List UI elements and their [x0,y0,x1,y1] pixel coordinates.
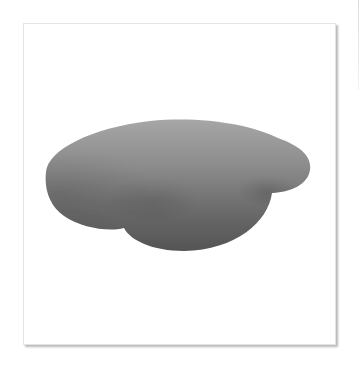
blob-body [46,120,311,251]
image-canvas [0,0,360,368]
gray-blob-illustration [0,0,360,368]
